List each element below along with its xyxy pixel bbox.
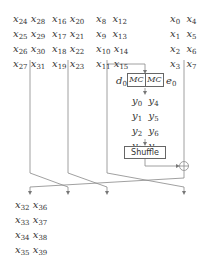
mc-box-right: MC — [145, 73, 164, 87]
input-group-d: x0 x4 x1 x5 x2 x6 x3 x7 — [170, 13, 197, 73]
d0-label: d0 — [116, 75, 127, 90]
shuffle-box: Shuffle — [124, 146, 166, 159]
mc-box-left: MC — [127, 73, 146, 87]
input-group-c: x8 x12 x9 x13 x10 x14 x11 x15 — [96, 13, 128, 73]
line-shuffle-to-xor — [145, 158, 178, 166]
input-group-b: x16 x20 x17 x21 x18 x22 x19 x23 — [52, 13, 84, 73]
output-group: x32 x36 x33 x37 x34 x38 x35 x39 — [15, 199, 47, 259]
e0-label: e0 — [166, 75, 176, 90]
input-group-a: x24 x28 x25 x29 x26 x30 x27 x31 — [13, 13, 45, 73]
